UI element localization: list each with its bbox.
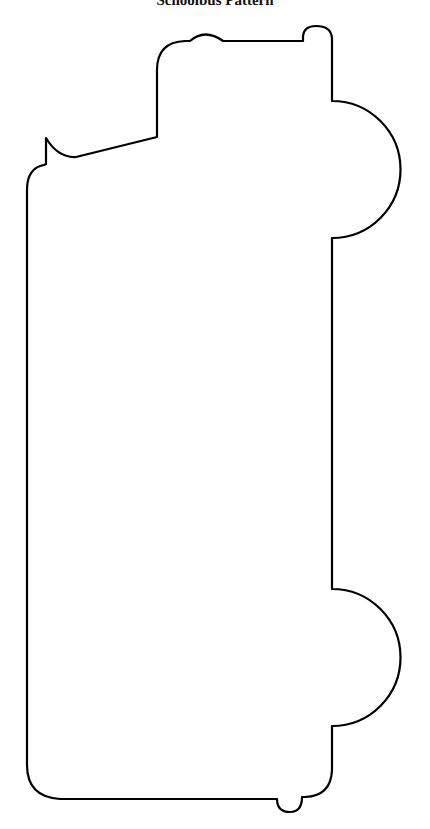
bus-outline-path	[27, 26, 401, 812]
schoolbus-outline	[0, 0, 430, 829]
